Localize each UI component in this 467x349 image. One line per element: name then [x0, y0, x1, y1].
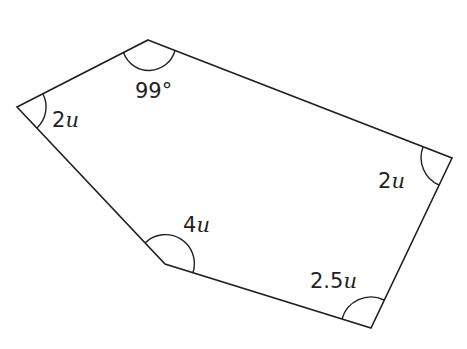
angle-arc-left	[37, 94, 46, 128]
angle-arc-top	[124, 51, 176, 71]
angle-label-bottom-right: 2.5u	[310, 269, 357, 293]
angle-label-right: 2u	[378, 169, 405, 193]
angle-label-left: 2u	[52, 108, 79, 132]
angle-label-bottom-left: 4u	[183, 213, 210, 237]
angle-arc-bottom-left	[145, 235, 194, 273]
pentagon-diagram: 99° 2u 4u 2u 2.5u	[0, 0, 467, 349]
angle-label-top: 99°	[135, 79, 172, 103]
